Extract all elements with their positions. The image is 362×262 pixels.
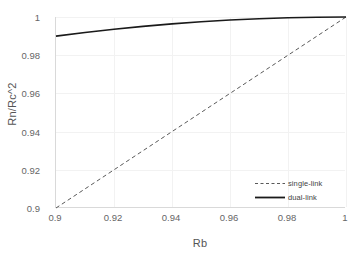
- legend-label: dual-link: [285, 193, 317, 202]
- x-tick-label: 0.94: [151, 212, 191, 223]
- x-tick-label: 0.92: [93, 212, 133, 223]
- chart-figure: Rn/Rc^2 0.90.920.940.960.981 0.90.920.94…: [0, 0, 362, 262]
- chart-legend: single-linkdual-link: [255, 178, 347, 206]
- x-tick-label: 1: [325, 212, 362, 223]
- legend-line-sample-dashed: [255, 179, 285, 188]
- y-tick-label: 1: [0, 12, 40, 23]
- x-tick-label: 0.98: [267, 212, 307, 223]
- series-line-dual-link: [56, 17, 346, 36]
- y-tick-label: 0.9: [0, 203, 40, 214]
- legend-line-sample-solid: [255, 193, 285, 202]
- y-tick-label: 0.94: [0, 126, 40, 137]
- y-tick-label: 0.96: [0, 88, 40, 99]
- x-tick-label: 0.96: [209, 212, 249, 223]
- y-axis-title: Rn/Rc^2: [0, 0, 24, 208]
- y-tick-label: 0.92: [0, 164, 40, 175]
- legend-item-dual-link[interactable]: dual-link: [255, 192, 347, 203]
- y-tick-label: 0.98: [0, 50, 40, 61]
- legend-label: single-link: [285, 179, 322, 188]
- x-axis-title: Rb: [55, 237, 345, 249]
- x-tick-label: 0.9: [35, 212, 75, 223]
- legend-item-single-link[interactable]: single-link: [255, 178, 347, 189]
